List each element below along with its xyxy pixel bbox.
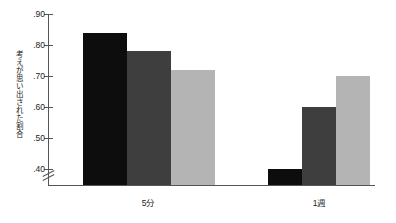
bar-chart: 考えが思い出された割合 .90.80.70.60.50.40 5分 1週 — [0, 0, 396, 223]
y-axis-label: 考えが思い出された割合 — [6, 34, 22, 154]
bar — [83, 33, 127, 185]
bar — [127, 51, 171, 185]
bar — [336, 76, 370, 185]
y-tick-label: .60 — [24, 102, 45, 112]
bar — [302, 107, 336, 185]
x-axis-line — [48, 185, 375, 186]
y-tick-label: .70 — [24, 71, 45, 81]
y-tick-label: .80 — [24, 40, 45, 50]
plot-area — [49, 14, 375, 185]
bar-group-1week — [268, 14, 371, 185]
bar-group-5min — [83, 14, 216, 185]
category-label-5min: 5分 — [82, 196, 215, 208]
bar — [268, 169, 302, 185]
category-label-1week: 1週 — [268, 196, 371, 208]
bar — [171, 70, 215, 185]
y-tick-label: .90 — [24, 9, 45, 19]
y-tick-label: .50 — [24, 133, 45, 143]
